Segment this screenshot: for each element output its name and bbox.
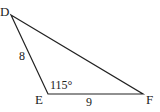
triangle-diagram: D E F 8 9 115° xyxy=(0,0,160,112)
triangle-def xyxy=(11,15,143,94)
side-label-ef: 9 xyxy=(86,95,92,109)
triangle-svg: D E F 8 9 115° xyxy=(0,0,160,112)
angle-label-e: 115° xyxy=(50,78,73,92)
side-label-de: 8 xyxy=(19,49,25,63)
vertex-label-d: D xyxy=(0,4,9,19)
vertex-label-f: F xyxy=(146,92,153,107)
vertex-label-e: E xyxy=(35,92,43,107)
